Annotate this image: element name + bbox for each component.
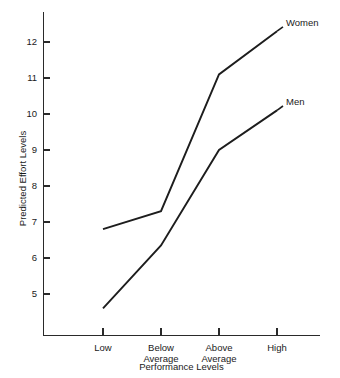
x-tick-label-high-line1: High — [242, 342, 312, 353]
y-axis-title: Predicted Effort Levels — [17, 89, 28, 269]
y-tick-label-12: 12 — [11, 36, 37, 47]
plot-area — [0, 0, 340, 378]
women-label-leader — [277, 27, 283, 31]
line-chart-figure: 12 11 10 9 8 7 6 5 Low Below Average Abo… — [0, 0, 340, 378]
men-label-leader — [277, 106, 283, 110]
y-tick-label-5: 5 — [11, 288, 37, 299]
series-label-men: Men — [286, 96, 304, 107]
y-tick-label-11: 11 — [11, 72, 37, 83]
series-line-men — [103, 110, 277, 308]
x-axis-title: Performance Levels — [43, 361, 320, 372]
series-label-women: Women — [286, 17, 319, 28]
